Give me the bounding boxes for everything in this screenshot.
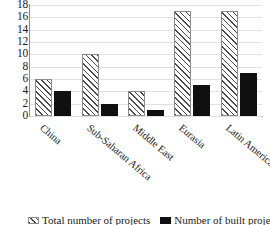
bar xyxy=(193,85,210,116)
bar xyxy=(240,73,257,116)
hatch-swatch xyxy=(28,217,39,224)
bar xyxy=(174,11,191,116)
bar-group xyxy=(76,5,122,116)
bar xyxy=(128,91,145,116)
bar xyxy=(54,91,71,116)
legend-label: Total number of projects xyxy=(42,214,150,225)
legend-label: Number of built projects xyxy=(174,214,270,225)
plot-area xyxy=(30,5,262,116)
y-axis-tick-label: 10 xyxy=(2,48,28,59)
bar-group xyxy=(123,5,169,116)
y-axis-tick-label: 16 xyxy=(2,11,28,22)
x-axis-category-label: Latin America xyxy=(224,122,270,168)
x-axis-category-label: China xyxy=(38,122,64,146)
legend-item: Number of built projects xyxy=(160,214,270,225)
y-axis-tick-label: 2 xyxy=(2,98,28,109)
bar xyxy=(82,54,99,116)
y-axis-tick-label: 14 xyxy=(2,24,28,35)
y-axis-tick-label: 4 xyxy=(2,85,28,96)
bar xyxy=(101,104,118,116)
x-axis-category-label: Middle East xyxy=(131,122,176,163)
bar xyxy=(35,79,52,116)
chart-screenshot: 024681012141618 ChinaSub-Saharan AfricaM… xyxy=(0,0,270,225)
y-axis-tick-label: 0 xyxy=(2,110,28,121)
bar-group xyxy=(216,5,262,116)
chart-legend: Total number of projectsNumber of built … xyxy=(28,214,270,225)
x-axis-category-label: Eurasia xyxy=(177,122,208,150)
legend-item: Total number of projects xyxy=(28,214,150,225)
bar-group xyxy=(169,5,215,116)
bar-group xyxy=(30,5,76,116)
y-axis-tick-labels: 024681012141618 xyxy=(0,0,28,225)
y-axis-tick-label: 8 xyxy=(2,61,28,72)
bar xyxy=(221,11,238,116)
gridline xyxy=(30,116,262,117)
y-axis-tick-label: 6 xyxy=(2,73,28,84)
y-axis-tick-label: 12 xyxy=(2,36,28,47)
solid-swatch xyxy=(160,217,171,224)
y-axis-tick-label: 18 xyxy=(2,0,28,10)
bar xyxy=(147,110,164,116)
